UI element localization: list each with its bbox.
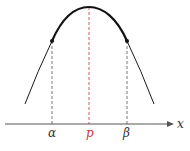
- beta-label: β: [122, 126, 130, 140]
- diagram-canvas: α p β x: [0, 0, 190, 151]
- parabola-diagram: α p β x: [0, 0, 190, 151]
- parabola-right-branch: [127, 41, 154, 104]
- x-axis-label: x: [177, 117, 184, 131]
- p-label: p: [86, 126, 94, 140]
- parabola-highlighted-arc: [52, 7, 127, 41]
- parabola-left-branch: [25, 41, 52, 104]
- x-axis-arrow-icon: [167, 121, 174, 127]
- alpha-point: [50, 39, 54, 43]
- alpha-label: α: [48, 126, 56, 140]
- beta-point: [125, 39, 129, 43]
